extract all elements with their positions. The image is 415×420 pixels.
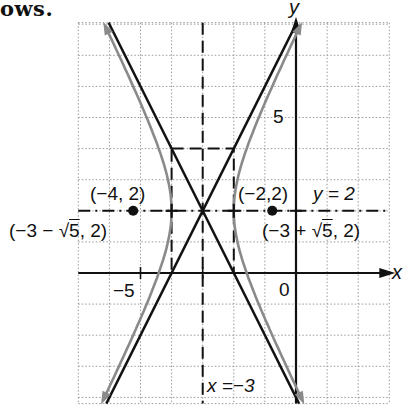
vertex-right-label: (−2,2)	[238, 184, 288, 203]
line-xneg3-text: x =−3	[207, 375, 255, 396]
line-y2-label: y = 2	[313, 184, 355, 203]
focus-left-root: 5	[69, 220, 80, 241]
focus-left-label: (−3 − √5, 2)	[9, 221, 107, 240]
hyperbola-plot	[0, 0, 415, 420]
focus-right-label: (−3 + √5, 2)	[262, 221, 360, 240]
line-xneg3-label: x =−3	[207, 376, 255, 395]
vertex-left-label: (−4, 2)	[90, 184, 145, 203]
hyperbola-figure: ows. y x 5 −5 0 (−4, 2) (−2,2) y = 2 (−3…	[0, 0, 415, 420]
sqrt-symbol: √	[312, 220, 322, 241]
focus-right-prefix: (−3 +	[262, 220, 312, 241]
focus-left-suffix: , 2)	[80, 220, 107, 241]
focus-right-root: 5	[322, 220, 333, 241]
y-axis-label: y	[289, 0, 299, 17]
origin-label: 0	[279, 280, 290, 299]
focus-right-suffix: , 2)	[333, 220, 360, 241]
sqrt-symbol: √	[59, 220, 69, 241]
focus-left-prefix: (−3 −	[9, 220, 59, 241]
tick-label-5: 5	[273, 107, 284, 126]
tick-label-neg5: −5	[113, 281, 135, 300]
x-axis-label: x	[392, 262, 402, 282]
